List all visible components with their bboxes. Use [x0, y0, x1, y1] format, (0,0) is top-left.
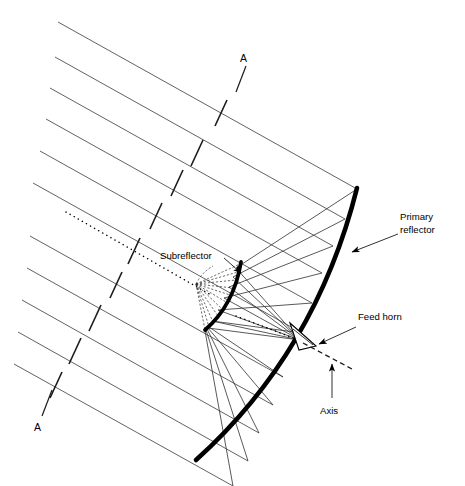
incoming-ray: [58, 22, 357, 189]
primary-reflector-label-line1: Primary: [400, 211, 433, 222]
construction-line: [196, 284, 213, 322]
section-tick: [69, 338, 81, 364]
section-label-ticks: [42, 66, 246, 416]
primary-reflector-label-line2: reflector: [400, 224, 435, 235]
section-tick: [191, 140, 203, 166]
section-marker-top-label: A: [240, 52, 247, 64]
incoming-ray: [30, 236, 283, 377]
section-cut-ticks: [50, 100, 227, 398]
feed-horn-leader: [319, 327, 356, 344]
incoming-ray: [55, 57, 345, 219]
section-marker-bottom-label: A: [34, 421, 41, 433]
construction-line: [196, 280, 236, 284]
incoming-ray: [22, 300, 259, 433]
reflected-ray: [207, 329, 259, 433]
construction-line: [196, 264, 240, 284]
feed-horn-label: Feed horn: [358, 311, 402, 322]
reflected-ray: [218, 303, 312, 310]
section-tick: [89, 305, 101, 331]
incoming-ray: [40, 151, 312, 303]
section-label-tick-top: [236, 66, 246, 92]
section-tick: [110, 272, 122, 298]
antenna-diagram: Primary reflector Subreflector Feed horn…: [0, 0, 465, 486]
incoming-ray: [14, 364, 233, 486]
primary-reflector-leader: [352, 234, 398, 252]
reflected-ray: [236, 189, 357, 268]
subreflector-construction-fan: [196, 264, 240, 330]
primary-reflector-arc: [196, 188, 357, 460]
subreflector-to-feed-rays: [208, 268, 300, 340]
section-tick: [215, 100, 227, 126]
incoming-ray: [27, 268, 273, 405]
axis-label: Axis: [320, 405, 338, 416]
subreflector-label: Subreflector: [160, 250, 213, 261]
section-label-tick-bottom: [42, 390, 52, 416]
section-tick: [150, 203, 162, 229]
reflected-ray: [205, 331, 233, 486]
section-tick: [128, 238, 140, 264]
reflected-ray: [209, 327, 283, 377]
antenna-ray-diagram-canvas: Primary reflector Subreflector Feed horn…: [0, 0, 465, 486]
incoming-ray: [50, 88, 333, 246]
subreflector-leader: [224, 258, 241, 273]
